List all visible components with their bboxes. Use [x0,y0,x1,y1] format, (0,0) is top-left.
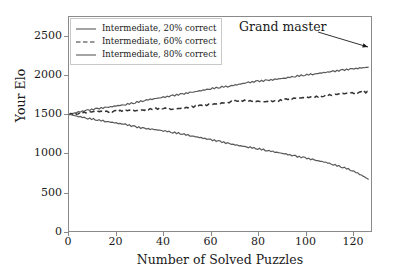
y-tick-mark [64,36,68,37]
x-tick-mark [211,232,212,236]
y-axis-ticks: 05001000150020002500 [0,0,62,279]
x-tick-mark [306,232,307,236]
x-tick-mark [353,232,354,236]
x-tick-label: 60 [204,236,218,247]
legend-item: Intermediate, 20% correct [75,22,216,35]
y-tick-mark [64,75,68,76]
x-tick-label: 120 [343,236,364,247]
x-tick-label: 20 [109,236,123,247]
legend-label: Intermediate, 60% correct [102,37,216,46]
chart-figure: 05001000150020002500 Your Elo Number of … [0,0,399,279]
legend-line-solid-icon [75,24,97,34]
y-tick-label: 2500 [4,30,62,41]
series-line [69,114,369,179]
x-tick-mark [163,232,164,236]
legend-line-solid-icon [75,50,97,60]
x-tick-label: 100 [295,236,316,247]
series-line [69,67,369,114]
y-tick-mark [64,114,68,115]
legend-item: Intermediate, 60% correct [75,35,216,48]
x-tick-label: 0 [65,236,72,247]
y-tick-label: 500 [4,187,62,198]
legend-label: Intermediate, 20% correct [102,24,216,33]
x-tick-mark [258,232,259,236]
x-tick-label: 80 [251,236,265,247]
x-tick-mark [116,232,117,236]
annotation-arrow-icon [300,22,380,58]
chart-legend: Intermediate, 20% correct Intermediate, … [70,18,222,65]
legend-item: Intermediate, 80% correct [75,48,216,61]
legend-label: Intermediate, 80% correct [102,50,216,59]
x-axis-label: Number of Solved Puzzles [68,252,372,267]
x-tick-mark [68,232,69,236]
series-line [69,91,369,115]
legend-line-dashed-icon [75,37,97,47]
y-tick-mark [64,193,68,194]
x-tick-label: 40 [156,236,170,247]
y-tick-label: 0 [4,226,62,237]
y-tick-mark [64,153,68,154]
y-axis-label: Your Elo [13,41,28,151]
